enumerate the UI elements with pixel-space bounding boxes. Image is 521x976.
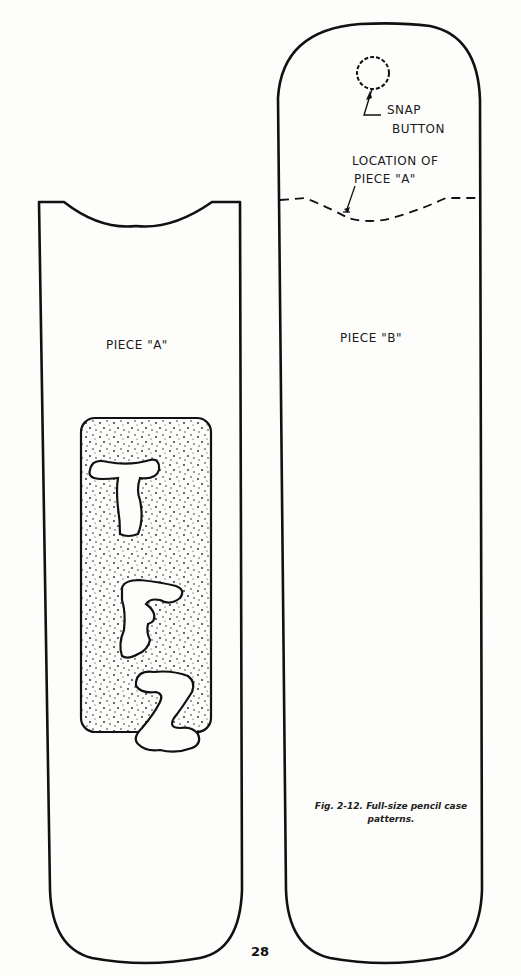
snap-leader-line <box>364 89 381 115</box>
caption-line2: patterns. <box>291 813 491 826</box>
snap-label-line1: SNAP <box>387 103 421 117</box>
caption-line1: Fig. 2-12. Full-size pencil case <box>291 800 491 813</box>
location-dashed-line <box>280 198 481 221</box>
location-label-line2: PIECE "A" <box>354 172 416 186</box>
piece-a-label: PIECE "A" <box>106 338 168 352</box>
pattern-drawing <box>0 0 521 976</box>
figure-caption: Fig. 2-12. Full-size pencil case pattern… <box>291 800 491 826</box>
piece-b-label: PIECE "B" <box>340 331 402 345</box>
location-label-line1: LOCATION OF <box>352 154 438 168</box>
snap-label-line2: BUTTON <box>392 122 445 136</box>
page-number: 28 <box>251 944 269 959</box>
snap-button-circle <box>357 57 389 89</box>
